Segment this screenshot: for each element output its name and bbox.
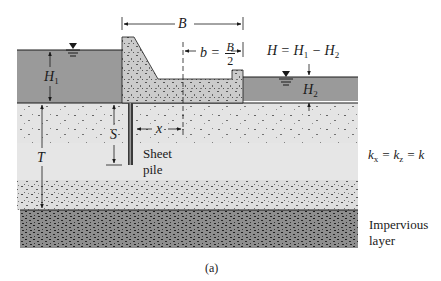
label-S: S [110, 128, 117, 142]
dam-seepage-diagram: B b = B2 H = H1 − H2 H1 H2 S T x Sheet p… [0, 0, 441, 281]
upstream-water [17, 50, 122, 103]
figure-caption: (a) [205, 262, 218, 274]
label-x: x [156, 122, 162, 136]
label-T: T [37, 151, 45, 165]
label-H2: H2 [303, 83, 318, 99]
label-impervious-layer: Impervious layer [369, 217, 428, 249]
label-b-equation: b = B2 [200, 41, 235, 67]
label-H1: H1 [44, 70, 59, 86]
label-sheet-pile: Sheet pile [143, 146, 172, 178]
label-B: B [178, 17, 187, 31]
downstream-water [243, 77, 358, 101]
label-permeability: kx = kz = k [368, 148, 424, 164]
label-H-equation: H = H1 − H2 [267, 44, 339, 60]
impervious-layer [20, 210, 358, 248]
